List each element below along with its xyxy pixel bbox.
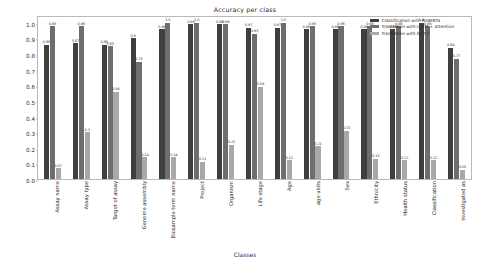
bar: 0.12 [402, 160, 407, 179]
y-tick-label: 0.2 [26, 147, 35, 153]
x-tick-label: Health status [402, 181, 408, 216]
bar-value-label: 0.98 [49, 22, 56, 26]
bar-group: 0.970.930.59 [240, 17, 269, 179]
y-tick-label: 0.5 [26, 100, 35, 106]
y-tick-mark [36, 102, 38, 103]
bar-value-label: 0.11 [199, 157, 206, 161]
bar: 0.99 [217, 24, 222, 179]
bar: 0.98 [310, 26, 315, 179]
bar: 0.98 [338, 26, 343, 179]
bar: 0.86 [44, 45, 49, 179]
bar: 0.14 [171, 157, 176, 179]
bar-value-label: 0.12 [430, 156, 437, 160]
bar-value-label: 0.97 [245, 23, 252, 27]
bar: 0.96 [361, 29, 366, 179]
bar-group: 0.960.980.31 [327, 17, 356, 179]
bar: 0.96 [159, 29, 164, 179]
bar-value-label: 0.07 [55, 164, 62, 168]
bar-value-label: 0.14 [170, 153, 177, 157]
bar-value-label: 0.99 [222, 20, 229, 24]
y-tick-label: 0.6 [26, 84, 35, 90]
y-tick-mark [36, 40, 38, 41]
chart-figure: Accuracy per class 0.860.980.070.870.980… [0, 0, 490, 274]
bar-value-label: 0.14 [141, 153, 148, 157]
y-tick-mark [36, 24, 38, 25]
bar-value-label: 0.98 [337, 22, 344, 26]
y-tick-label: 0.0 [26, 178, 35, 184]
bar-group: 0.960.980.12 [384, 17, 413, 179]
y-tick-label: 1.0 [26, 22, 35, 28]
chart-title: Accuracy per class [0, 6, 490, 13]
bar: 0.96 [390, 29, 395, 179]
bar: 1.0 [194, 23, 199, 179]
x-axis-tick-labels: Assay nameAssay typeTarget of assayGenom… [37, 181, 472, 243]
bar: 0.85 [108, 46, 113, 179]
y-tick-mark [36, 118, 38, 119]
bar: 0.96 [304, 29, 309, 179]
bar-group: 0.960.980.13 [355, 17, 384, 179]
bar-group: 1.00.980.12 [413, 17, 442, 179]
bar-value-label: 0.3 [85, 128, 90, 132]
bar: 0.06 [460, 170, 465, 179]
bar: 0.99 [188, 24, 193, 179]
bar-value-label: 0.75 [135, 57, 142, 61]
legend-label: Translation with LSTM + attention [382, 24, 455, 29]
bar: 1.0 [419, 23, 424, 179]
bar-value-label: 0.22 [228, 140, 235, 144]
bar: 0.86 [102, 45, 107, 179]
bar: 0.07 [56, 168, 61, 179]
y-tick-mark [36, 71, 38, 72]
y-tick-label: 0.8 [26, 53, 35, 59]
legend-swatch-icon [370, 25, 379, 28]
x-tick-label: Classification [431, 181, 437, 215]
x-tick-label: Biosample term name [170, 181, 176, 238]
bar-value-label: 0.93 [251, 29, 258, 33]
legend-label: Translation with GPT-2 [382, 31, 430, 36]
bar-value-label: 0.59 [257, 82, 264, 86]
bar-group: 0.840.770.06 [442, 17, 471, 179]
bar: 0.12 [431, 160, 436, 179]
legend-item[interactable]: Classification with RoBERTa [370, 18, 454, 23]
bar: 0.97 [246, 28, 251, 180]
bar-groups: 0.860.980.070.870.980.30.860.850.560.90.… [38, 17, 471, 179]
bar: 0.59 [258, 87, 263, 179]
chart-legend: Classification with RoBERTaTranslation w… [370, 18, 454, 36]
y-tick-mark [36, 56, 38, 57]
bar: 0.11 [200, 162, 205, 179]
x-tick-label: Investigated as [460, 181, 466, 221]
x-tick-label: age units [315, 181, 321, 205]
bar: 0.75 [136, 62, 141, 179]
y-tick-label: 0.1 [26, 162, 35, 168]
y-tick-mark [36, 149, 38, 150]
bar-value-label: 0.12 [285, 156, 292, 160]
legend-swatch-icon [370, 19, 379, 22]
x-tick-label: Assay name [54, 181, 60, 213]
bar: 0.14 [142, 157, 147, 179]
bar: 0.93 [252, 34, 257, 179]
y-tick-mark [36, 165, 38, 166]
x-tick-label: Age [286, 181, 292, 191]
bar-value-label: 0.31 [343, 126, 350, 130]
y-tick-label: 0.7 [26, 69, 35, 75]
bar-group: 0.991.00.11 [182, 17, 211, 179]
bar-group: 0.870.980.3 [67, 17, 96, 179]
bar-value-label: 0.21 [314, 142, 321, 146]
y-tick-label: 0.9 [26, 37, 35, 43]
x-tick-label: Sex [344, 181, 350, 190]
bar-value-label: 0.56 [112, 87, 119, 91]
bar: 0.99 [223, 24, 228, 179]
bar-value-label: 1.0 [194, 18, 199, 22]
bar: 0.22 [229, 145, 234, 179]
bar: 0.56 [113, 92, 118, 179]
x-tick-label: Assay type [83, 181, 89, 209]
x-tick-label: Organism [228, 181, 234, 206]
bar: 0.12 [287, 160, 292, 179]
bar-group: 0.860.980.07 [38, 17, 67, 179]
bar-value-label: 1.0 [165, 18, 170, 22]
legend-item[interactable]: Translation with GPT-2 [370, 31, 454, 36]
legend-item[interactable]: Translation with LSTM + attention [370, 24, 454, 29]
y-tick-label: 0.3 [26, 131, 35, 137]
bar-value-label: 0.84 [447, 43, 454, 47]
bar: 0.77 [454, 59, 459, 179]
bar-group: 0.860.850.56 [96, 17, 125, 179]
